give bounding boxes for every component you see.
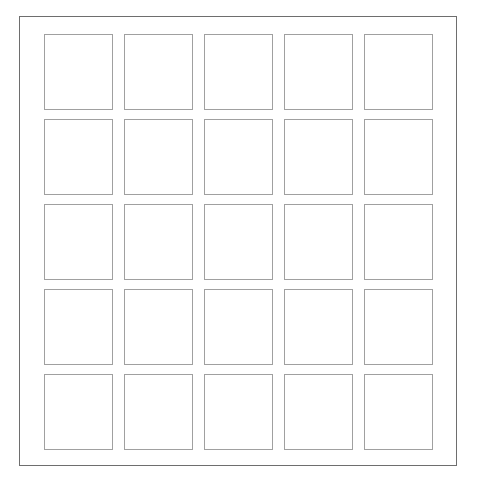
grid-cell[interactable] <box>44 374 113 450</box>
grid-body <box>44 34 441 443</box>
grid-cell[interactable] <box>44 204 113 280</box>
grid-cell[interactable] <box>204 204 273 280</box>
grid-frame <box>19 16 457 466</box>
grid-cell[interactable] <box>124 34 193 110</box>
grid-row <box>44 119 441 195</box>
grid-cell[interactable] <box>204 289 273 365</box>
grid-cell[interactable] <box>204 374 273 450</box>
grid-cell[interactable] <box>364 289 433 365</box>
grid-cell[interactable] <box>284 289 353 365</box>
grid-cell[interactable] <box>284 374 353 450</box>
grid-row <box>44 204 441 280</box>
grid-cell[interactable] <box>364 34 433 110</box>
grid-row <box>44 289 441 365</box>
grid-cell[interactable] <box>124 119 193 195</box>
grid-cell[interactable] <box>364 374 433 450</box>
grid-cell[interactable] <box>284 204 353 280</box>
grid-cell[interactable] <box>284 34 353 110</box>
grid-cell[interactable] <box>124 374 193 450</box>
grid-cell[interactable] <box>204 34 273 110</box>
grid-cell[interactable] <box>284 119 353 195</box>
grid-cell[interactable] <box>124 204 193 280</box>
grid-cell[interactable] <box>364 119 433 195</box>
grid-cell[interactable] <box>204 119 273 195</box>
grid-row <box>44 374 441 450</box>
grid-cell[interactable] <box>44 34 113 110</box>
grid-cell[interactable] <box>44 289 113 365</box>
grid-row <box>44 34 441 110</box>
grid-cell[interactable] <box>124 289 193 365</box>
grid-cell[interactable] <box>44 119 113 195</box>
grid-cell[interactable] <box>364 204 433 280</box>
